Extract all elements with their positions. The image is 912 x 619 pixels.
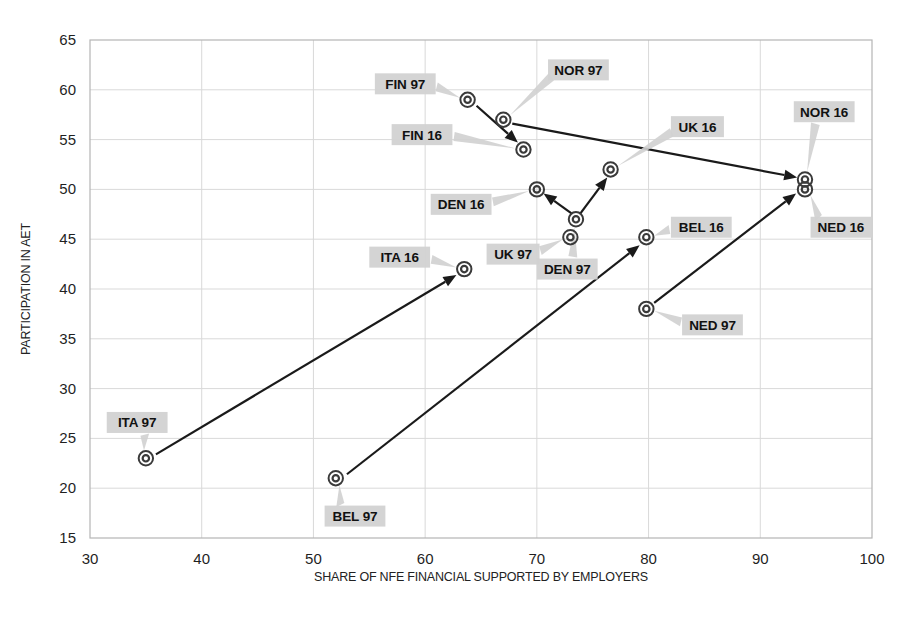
point-label-text: ITA 97 — [118, 415, 156, 430]
point-label-text: FIN 97 — [385, 77, 425, 92]
data-point-den-97[interactable] — [569, 212, 583, 226]
point-label-text: FIN 16 — [402, 128, 443, 143]
point-label-ned-97: NED 97 — [682, 314, 743, 335]
x-tick-30: 30 — [82, 550, 99, 567]
point-label-den-16: DEN 16 — [431, 194, 492, 215]
point-label-text: NED 16 — [818, 220, 865, 235]
leader-line — [140, 434, 149, 451]
point-label-uk-16: UK 16 — [671, 116, 724, 137]
y-tick-25: 25 — [59, 429, 76, 446]
data-point-ita-97[interactable] — [139, 451, 153, 465]
point-label-text: UK 16 — [679, 120, 717, 135]
x-tick-70: 70 — [529, 550, 546, 567]
arrow-nor-97-to-nor-16 — [512, 124, 797, 181]
point-label-uk-97: UK 97 — [487, 244, 540, 265]
leader-line — [510, 73, 554, 115]
y-axis-title: PARTICIPATION IN AET — [19, 222, 33, 354]
y-axis-tick-labels: 1520253035404550556065 — [59, 31, 76, 546]
point-label-ned-16: NED 16 — [811, 217, 872, 238]
x-tick-100: 100 — [859, 550, 884, 567]
x-tick-60: 60 — [417, 550, 434, 567]
x-tick-40: 40 — [193, 550, 210, 567]
point-label-bel-97: BEL 97 — [325, 506, 386, 527]
scatter-chart-figure: 1520253035404550556065 30405060708090100… — [0, 0, 912, 619]
arrow-den-97-to-uk-16 — [580, 177, 607, 213]
data-point-uk-16[interactable] — [603, 162, 617, 176]
point-label-text: DEN 97 — [544, 262, 591, 277]
y-tick-35: 35 — [59, 330, 76, 347]
point-label-text: DEN 16 — [438, 197, 485, 212]
point-label-ita-16: ITA 16 — [369, 247, 430, 268]
y-tick-65: 65 — [59, 31, 76, 48]
transition-arrows — [156, 106, 797, 475]
point-label-fin-97: FIN 97 — [375, 73, 436, 94]
data-point-fin-16[interactable] — [516, 142, 530, 156]
y-tick-55: 55 — [59, 131, 76, 148]
leader-line — [654, 311, 682, 327]
point-label-text: UK 97 — [494, 247, 532, 262]
x-tick-90: 90 — [752, 550, 769, 567]
data-point-bel-16[interactable] — [639, 230, 653, 244]
y-tick-60: 60 — [59, 81, 76, 98]
point-label-text: NOR 97 — [554, 63, 602, 78]
arrow-den-97-to-den-16 — [544, 193, 572, 213]
x-axis-tick-labels: 30405060708090100 — [82, 550, 885, 567]
y-tick-30: 30 — [59, 380, 76, 397]
data-point-nor-97[interactable] — [496, 112, 510, 126]
point-label-text: NED 97 — [689, 318, 736, 333]
leader-line — [539, 239, 563, 254]
y-tick-15: 15 — [59, 529, 76, 546]
leader-line — [492, 191, 529, 206]
data-point-labels: FIN 97NOR 97FIN 16DEN 16UK 97DEN 97UK 16… — [107, 59, 872, 526]
point-label-ita-97: ITA 97 — [107, 412, 168, 433]
data-point-fin-97[interactable] — [460, 93, 474, 107]
y-tick-50: 50 — [59, 180, 76, 197]
point-label-text: ITA 16 — [380, 250, 419, 265]
data-point-bel-97[interactable] — [329, 471, 343, 485]
point-label-text: BEL 16 — [679, 220, 725, 235]
point-label-text: BEL 97 — [333, 509, 378, 524]
arrow-ita-97-to-ita-16 — [156, 275, 457, 454]
leader-line — [618, 128, 674, 166]
label-leader-lines — [140, 73, 821, 507]
point-label-text: NOR 16 — [800, 105, 849, 120]
data-point-ned-97[interactable] — [639, 302, 653, 316]
x-axis-title: SHARE OF NFE FINANCIAL SUPPORTED BY EMPL… — [314, 570, 648, 584]
x-tick-50: 50 — [305, 550, 322, 567]
point-label-nor-16: NOR 16 — [794, 101, 855, 122]
leader-line — [431, 255, 457, 268]
y-tick-20: 20 — [59, 479, 76, 496]
leader-line — [453, 132, 515, 148]
point-label-fin-16: FIN 16 — [392, 124, 453, 145]
arrow-ned-97-to-ned-16 — [654, 193, 796, 303]
point-label-nor-97: NOR 97 — [548, 59, 609, 80]
x-tick-80: 80 — [640, 550, 657, 567]
gridlines — [90, 40, 872, 538]
leader-line — [807, 123, 820, 172]
leader-line — [654, 225, 670, 236]
chart-canvas: 1520253035404550556065 30405060708090100… — [0, 0, 912, 619]
data-point-ita-16[interactable] — [457, 262, 471, 276]
y-tick-40: 40 — [59, 280, 76, 297]
point-label-bel-16: BEL 16 — [671, 217, 732, 238]
point-label-den-97: DEN 97 — [537, 259, 598, 280]
y-tick-45: 45 — [59, 230, 76, 247]
